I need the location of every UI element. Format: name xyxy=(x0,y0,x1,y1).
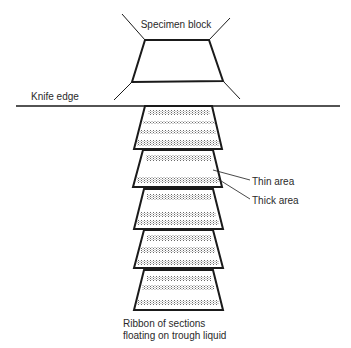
microtome-ribbon-diagram: Specimen block Knife edge xyxy=(0,0,351,348)
specimen-block-label: Specimen block xyxy=(141,19,213,30)
section-ribbon xyxy=(133,106,223,310)
section-2 xyxy=(133,150,222,187)
thick-area-label: Thick area xyxy=(252,195,299,206)
thin-area-callout: Thin area xyxy=(213,170,295,187)
section-4 xyxy=(134,230,223,268)
ribbon-caption-line-2: floating on trough liquid xyxy=(123,330,226,341)
knife-edge: Knife edge xyxy=(16,91,340,106)
section-3 xyxy=(134,189,223,229)
ribbon-caption: Ribbon of sections floating on trough li… xyxy=(123,318,226,341)
ribbon-caption-line-1: Ribbon of sections xyxy=(123,318,205,329)
specimen-block: Specimen block xyxy=(114,14,240,100)
knife-edge-label: Knife edge xyxy=(31,91,79,102)
thin-area-label: Thin area xyxy=(252,176,295,187)
section-1 xyxy=(134,106,222,149)
section-5 xyxy=(134,270,223,310)
